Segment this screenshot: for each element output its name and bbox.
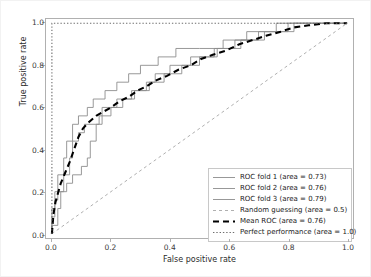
y-tick-label: 0.4	[32, 145, 44, 154]
legend-swatch-icon	[212, 216, 236, 227]
legend-label: ROC fold 2 (area = 0.76)	[240, 183, 327, 194]
x-tick-mark	[51, 239, 52, 242]
y-tick-label: 0.0	[32, 230, 44, 239]
x-tick-mark	[110, 239, 111, 242]
legend-swatch-icon	[212, 227, 236, 238]
legend-swatch-icon	[212, 194, 236, 205]
legend: ROC fold 1 (area = 0.73)ROC fold 2 (area…	[208, 168, 352, 242]
legend-item[interactable]: Random guessing (area = 0.5)	[212, 205, 347, 216]
legend-label: ROC fold 3 (area = 0.79)	[240, 194, 327, 205]
legend-item[interactable]: ROC fold 2 (area = 0.76)	[212, 183, 347, 194]
y-tick-label: 0.6	[32, 103, 44, 112]
legend-item[interactable]: Perfect performance (area = 1.0)	[212, 227, 347, 238]
x-tick-mark	[170, 239, 171, 242]
x-tick-label: 1.0	[342, 243, 354, 252]
legend-item[interactable]: Mean ROC (area = 0.76)	[212, 216, 347, 227]
x-tick-mark	[289, 239, 290, 242]
x-axis-label: False positive rate	[45, 255, 354, 264]
x-tick-label: 0.6	[223, 243, 235, 252]
x-tick-mark	[348, 239, 349, 242]
x-tick-label: 0.4	[164, 243, 176, 252]
roc-curve-figure: False positive rate True positive rate R…	[0, 0, 371, 277]
x-tick-label: 0.8	[283, 243, 295, 252]
legend-label: Mean ROC (area = 0.76)	[240, 216, 326, 227]
x-tick-mark	[229, 239, 230, 242]
x-tick-label: 0.2	[104, 243, 116, 252]
legend-swatch-icon	[212, 172, 236, 183]
x-tick-label: 0.0	[45, 243, 57, 252]
legend-swatch-icon	[212, 183, 236, 194]
legend-label: Perfect performance (area = 1.0)	[240, 227, 356, 238]
y-tick-label: 0.2	[32, 188, 44, 197]
legend-label: Random guessing (area = 0.5)	[240, 205, 347, 216]
legend-label: ROC fold 1 (area = 0.73)	[240, 172, 327, 183]
y-tick-label: 0.8	[32, 60, 44, 69]
legend-swatch-icon	[212, 205, 236, 216]
y-tick-label: 1.0	[32, 18, 44, 27]
y-axis-label: True positive rate	[19, 12, 28, 132]
legend-item[interactable]: ROC fold 1 (area = 0.73)	[212, 172, 347, 183]
legend-item[interactable]: ROC fold 3 (area = 0.79)	[212, 194, 347, 205]
